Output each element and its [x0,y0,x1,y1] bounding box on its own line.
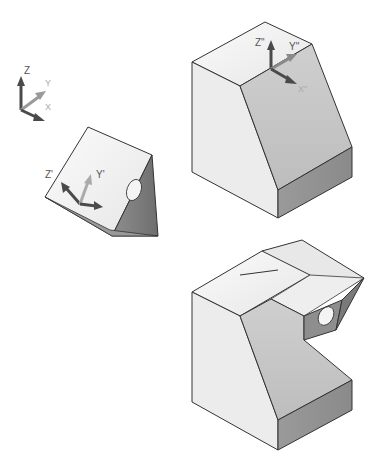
world-z-label: Z [24,65,30,76]
world-ucs-icon: Z Y X [17,65,51,121]
wedge-solid: Z' Y' [45,127,158,236]
block-y-label: Y" [289,41,300,52]
wedge-y-label: Y' [96,169,105,180]
wedge-z-label: Z' [45,169,53,180]
sloped-block-solid: Z" Y" X" [192,22,352,218]
world-y-label: Y [45,78,51,88]
diagram-canvas: Z Y X Z' Y' [0,0,385,462]
combined-solid [192,240,364,450]
world-x-label: X [45,102,51,112]
block-x-label: X" [298,84,307,94]
block-z-label: Z" [255,37,265,48]
